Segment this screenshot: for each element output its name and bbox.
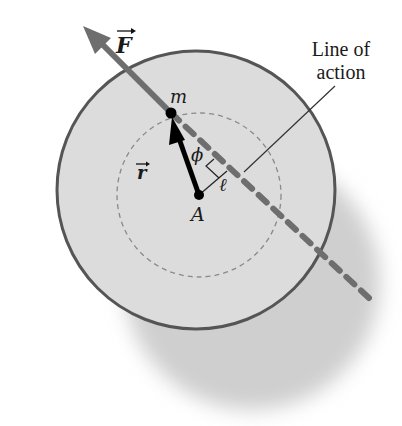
mass-label: m <box>170 88 187 106</box>
angle-phi-label: ϕ <box>191 146 203 164</box>
position-vector-label: r <box>137 164 146 182</box>
line-of-action-caption-line1: Line of <box>300 38 382 61</box>
pivot-point-A <box>194 190 204 200</box>
torque-diagram: F m r ϕ ℓ A Line of action <box>0 0 402 426</box>
mass-point-m <box>166 108 177 119</box>
pivot-label: A <box>191 205 205 224</box>
lever-arm-label: ℓ <box>219 176 227 194</box>
line-of-action-caption-line2: action <box>300 61 382 84</box>
force-label: F <box>116 34 132 56</box>
line-of-action-caption: Line of action <box>300 38 382 84</box>
